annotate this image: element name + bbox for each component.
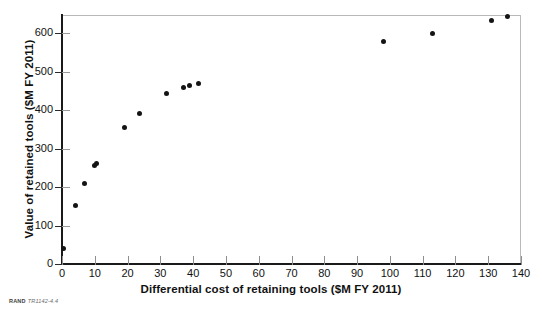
x-tick-110 — [423, 256, 424, 265]
x-tick-label-40: 40 — [178, 268, 208, 279]
data-point — [430, 31, 435, 36]
x-tick-70 — [292, 256, 293, 265]
data-point — [181, 85, 186, 90]
data-point — [94, 161, 99, 166]
y-tick-inner-100 — [62, 226, 70, 227]
y-tick-inner-600 — [62, 33, 70, 34]
y-tick-inner-500 — [62, 72, 70, 73]
x-tick-label-60: 60 — [244, 268, 274, 279]
x-tick-label-20: 20 — [113, 268, 143, 279]
data-point — [137, 111, 142, 116]
x-tick-30 — [160, 256, 161, 265]
x-tick-label-140: 140 — [506, 268, 536, 279]
y-tick-inner-200 — [62, 187, 70, 188]
figure-container: 0100200300400500600 01020304050607080901… — [0, 0, 542, 322]
x-tick-label-30: 30 — [145, 268, 175, 279]
data-point — [73, 203, 78, 208]
x-tick-label-0: 0 — [47, 268, 77, 279]
x-tick-label-80: 80 — [309, 268, 339, 279]
credit-figure-number: TR1142-4.4 — [28, 298, 59, 304]
x-tick-label-10: 10 — [80, 268, 110, 279]
x-tick-label-50: 50 — [211, 268, 241, 279]
x-tick-60 — [259, 256, 260, 265]
x-tick-140 — [521, 256, 522, 265]
x-tick-10 — [95, 256, 96, 265]
x-tick-20 — [128, 256, 129, 265]
plot-area — [62, 15, 521, 264]
data-point — [196, 81, 201, 86]
x-tick-label-90: 90 — [342, 268, 372, 279]
x-tick-label-110: 110 — [408, 268, 438, 279]
y-tick-inner-400 — [62, 110, 70, 111]
x-tick-40 — [193, 256, 194, 265]
x-tick-50 — [226, 256, 227, 265]
x-tick-120 — [455, 256, 456, 265]
x-tick-130 — [488, 256, 489, 265]
x-tick-80 — [324, 256, 325, 265]
x-tick-label-120: 120 — [440, 268, 470, 279]
y-axis-title: Value of retained tools ($M FY 2011) — [23, 14, 35, 264]
y-tick-inner-300 — [62, 149, 70, 150]
x-tick-90 — [357, 256, 358, 265]
data-point — [122, 125, 127, 130]
x-tick-label-100: 100 — [375, 268, 405, 279]
x-tick-100 — [390, 256, 391, 265]
x-axis-title: Differential cost of retaining tools ($M… — [0, 283, 542, 295]
x-tick-0 — [62, 256, 63, 265]
x-tick-label-70: 70 — [277, 268, 307, 279]
x-tick-label-130: 130 — [473, 268, 503, 279]
y-axis-line — [61, 14, 63, 265]
figure-credit: RANDTR1142-4.4 — [9, 298, 58, 304]
credit-brand: RAND — [9, 298, 26, 304]
